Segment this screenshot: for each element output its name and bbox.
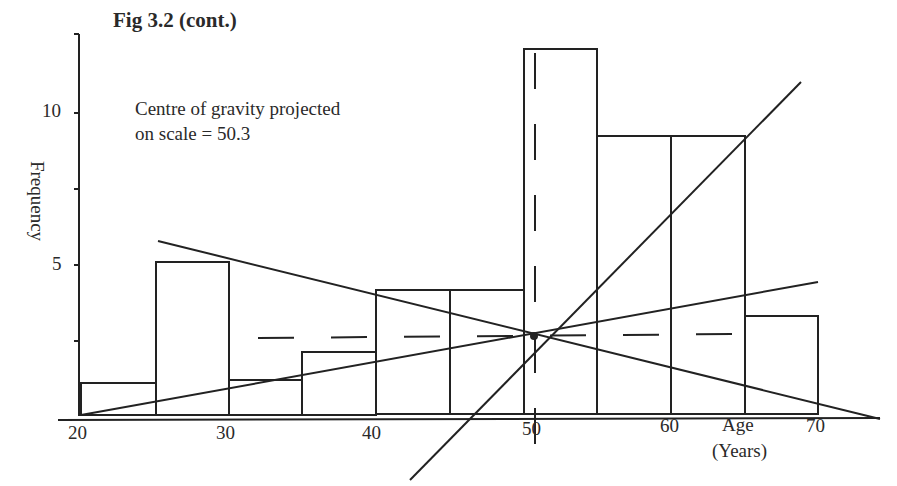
y-axis-label: Frequency (26, 146, 48, 256)
bar-40-45 (376, 290, 450, 414)
x-tick-label-70: 70 (806, 415, 825, 437)
annotation: Centre of gravity projected on scale = 5… (135, 96, 340, 146)
x-tick-label-20: 20 (68, 422, 87, 444)
x-axis-label-age: Age (722, 414, 754, 436)
bar-65-70 (745, 316, 818, 414)
x-tick-label-30: 30 (216, 422, 235, 444)
annotation-line-2: on scale = 50.3 (135, 121, 340, 146)
bar-20-25 (81, 383, 156, 415)
bar-55-60 (597, 136, 671, 414)
bar-45-50 (450, 290, 524, 414)
y-tick-label-10: 10 (42, 100, 61, 122)
bar-25-30 (156, 262, 229, 415)
figure-title: Fig 3.2 (cont.) (113, 8, 237, 33)
y-tick-label-5: 5 (52, 253, 62, 275)
bar-35-40 (302, 352, 376, 415)
x-tick-label-60: 60 (660, 415, 679, 437)
x-tick-label-50: 50 (522, 418, 541, 440)
x-tick-label-40: 40 (362, 422, 381, 444)
bar-30-35 (229, 380, 302, 415)
dashed-horizontal-line (258, 334, 740, 338)
annotation-line-1: Centre of gravity projected (135, 96, 340, 121)
balance-line-descending (158, 241, 880, 419)
x-axis-label-years: (Years) (712, 440, 767, 462)
centre-of-gravity-point (530, 332, 538, 340)
histogram-plot (0, 0, 897, 486)
